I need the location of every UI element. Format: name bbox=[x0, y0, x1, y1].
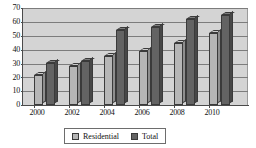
bar-total-2008 bbox=[186, 19, 195, 105]
bar-total-2010 bbox=[221, 15, 230, 105]
x-tick-label: 2004 bbox=[92, 108, 122, 117]
bar-side-face bbox=[55, 59, 58, 103]
bar-front-face bbox=[186, 19, 195, 105]
bar-total-2000 bbox=[46, 63, 55, 105]
total-swatch-icon bbox=[131, 133, 138, 140]
y-axis-line bbox=[22, 8, 23, 106]
bar-front-face bbox=[104, 56, 113, 105]
bar-front-face bbox=[151, 27, 160, 105]
bar-residential-2006 bbox=[139, 51, 148, 105]
bar-side-face bbox=[90, 57, 93, 103]
legend-entry-residential[interactable]: Residential bbox=[72, 132, 119, 141]
bar-group-2006 bbox=[139, 8, 169, 105]
bar-group-2004 bbox=[104, 8, 134, 105]
x-axis-labels: 2000 2002 2004 2006 2008 2010 bbox=[22, 108, 248, 120]
bar-front-face bbox=[34, 75, 43, 105]
bar-side-face bbox=[230, 11, 233, 103]
bar-total-2006 bbox=[151, 27, 160, 105]
bar-total-2004 bbox=[116, 30, 125, 105]
legend-entry-total[interactable]: Total bbox=[131, 132, 158, 141]
bar-residential-2010 bbox=[209, 33, 218, 105]
bar-residential-2004 bbox=[104, 56, 113, 105]
bar-front-face bbox=[46, 63, 55, 105]
bar-residential-2008 bbox=[174, 43, 183, 105]
bar-group-2002 bbox=[69, 8, 99, 105]
bar-front-face bbox=[69, 66, 78, 105]
bar-group-2010 bbox=[209, 8, 239, 105]
x-tick-label: 2008 bbox=[162, 108, 192, 117]
bar-residential-2000 bbox=[34, 75, 43, 105]
bar-front-face bbox=[174, 43, 183, 105]
x-tick-label: 2010 bbox=[197, 108, 227, 117]
x-tick-label: 2000 bbox=[22, 108, 52, 117]
bar-front-face bbox=[209, 33, 218, 105]
bar-front-face bbox=[81, 61, 90, 105]
bar-side-face bbox=[195, 15, 198, 103]
chart-legend: Residential Total bbox=[64, 128, 166, 144]
bar-group-2008 bbox=[174, 8, 204, 105]
bar-group-2000 bbox=[34, 8, 64, 105]
bar-front-face bbox=[139, 51, 148, 105]
legend-label-residential: Residential bbox=[83, 132, 119, 141]
plot-area bbox=[22, 8, 248, 105]
bar-total-2002 bbox=[81, 61, 90, 105]
bar-residential-2002 bbox=[69, 66, 78, 105]
x-tick-label: 2002 bbox=[57, 108, 87, 117]
residential-swatch-icon bbox=[72, 133, 79, 140]
bar-front-face bbox=[116, 30, 125, 105]
bar-side-face bbox=[160, 23, 163, 103]
bar-chart: 70 60 50 40 30 20 10 0 bbox=[0, 0, 256, 148]
bar-front-face bbox=[221, 15, 230, 105]
legend-label-total: Total bbox=[142, 132, 158, 141]
x-tick-label: 2006 bbox=[127, 108, 157, 117]
bar-side-face bbox=[125, 26, 128, 103]
